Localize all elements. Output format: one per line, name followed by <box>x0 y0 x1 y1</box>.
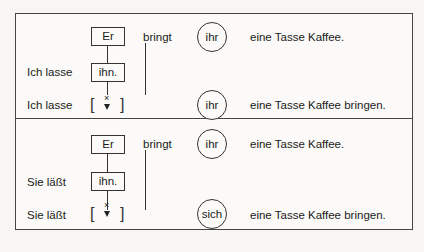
pronoun-circle: ihr <box>197 90 227 120</box>
prefix-text: Sie läßt <box>27 175 66 189</box>
pronoun-circle: ihr <box>197 129 227 159</box>
prefix-text: Ich lasse <box>27 98 72 112</box>
object-text: eine Tasse Kaffee. <box>250 30 344 44</box>
object-pronoun-box: ihn. <box>91 63 125 82</box>
prefix-text: Ich lasse <box>27 65 72 79</box>
gap-bracket-close: ] <box>120 205 124 223</box>
object-text: eine Tasse Kaffee. <box>250 137 344 151</box>
gap-bracket-open: [ <box>90 96 94 114</box>
pronoun-circle: ihr <box>197 22 227 52</box>
prefix-text: Sie läßt <box>27 208 66 222</box>
subject-box: Er <box>91 135 125 154</box>
pronoun-circle: sich <box>197 199 227 229</box>
gap-bracket-close: ] <box>120 96 124 114</box>
verb-text: bringt <box>143 137 172 151</box>
verb-text: bringt <box>143 30 172 44</box>
object-text: eine Tasse Kaffee bringen. <box>250 208 386 222</box>
arrow-down-icon <box>104 211 110 217</box>
object-text: eine Tasse Kaffee bringen. <box>250 98 386 112</box>
pronoun-link-line <box>145 150 146 210</box>
deleted-x-icon: × <box>104 201 109 210</box>
deleted-x-icon: × <box>104 94 109 103</box>
arrow-down-icon <box>104 104 110 110</box>
pronoun-link-line <box>145 43 146 95</box>
gap-bracket-open: [ <box>90 205 94 223</box>
object-pronoun-box: ihn. <box>91 172 125 191</box>
subject-box: Er <box>91 27 125 46</box>
